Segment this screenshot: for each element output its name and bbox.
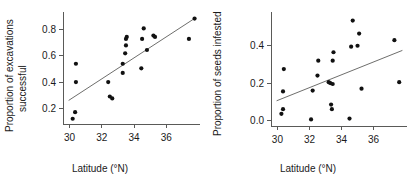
data-point (145, 48, 149, 52)
data-point (71, 117, 75, 121)
data-point (121, 62, 125, 66)
data-point (192, 16, 196, 20)
data-point (281, 89, 285, 93)
data-point (124, 43, 128, 47)
y-axis-title-line1: Proportion of seeds infested (212, 11, 223, 136)
data-point (309, 117, 313, 121)
data-point (315, 74, 319, 78)
x-tick-label: 30 (272, 134, 284, 145)
data-point (357, 31, 361, 35)
data-point (74, 80, 78, 84)
data-point (121, 71, 125, 75)
data-point (355, 44, 359, 48)
panel-left-plot: Proportion of excavations successful Lat… (0, 0, 204, 185)
x-tick-label: 32 (304, 134, 316, 145)
plot-body-left: 303234360.20.40.60.8 (42, 12, 200, 143)
y-axis-title-line2: successful (17, 65, 28, 112)
x-tick-label: 36 (161, 132, 173, 143)
data-point (279, 112, 283, 116)
y-tick-label: 0.2 (42, 103, 56, 114)
data-point (331, 50, 335, 54)
y-axis-title-right: Proportion of seeds infested (212, 11, 223, 136)
y-tick-label: 0.4 (250, 40, 264, 51)
panel-right-plot: Proportion of seeds infested Latitude (°… (205, 0, 409, 185)
y-axis-title-line1: Proportion of excavations (4, 19, 15, 132)
data-point (153, 35, 157, 39)
y-tick-label: 0.0 (250, 115, 264, 126)
panel-left-excavations: Proportion of excavations successful Lat… (0, 0, 204, 185)
x-tick-label: 34 (128, 132, 140, 143)
y-tick-label: 0.8 (42, 24, 56, 35)
x-axis-title-left: Latitude (°N) (72, 163, 128, 174)
x-tick-label: 36 (368, 134, 380, 145)
y-axis-title-left: Proportion of excavations successful (4, 19, 28, 132)
data-point (351, 18, 355, 22)
data-point (359, 87, 363, 91)
plot-body-right: 303234360.00.20.4 (250, 12, 407, 145)
x-axis-title-right: Latitude (°N) (280, 163, 336, 174)
y-tick-label: 0.6 (42, 50, 56, 61)
data-point (397, 80, 401, 84)
data-point (349, 45, 353, 49)
data-point (281, 107, 285, 111)
y-tick-label: 0.4 (42, 77, 56, 88)
data-point (106, 80, 110, 84)
data-point (139, 66, 143, 70)
data-point (140, 37, 144, 41)
data-point (282, 67, 286, 71)
regression-line (69, 18, 196, 101)
data-point (187, 37, 191, 41)
figure-container: Proportion of excavations successful Lat… (0, 0, 409, 185)
data-point (142, 26, 146, 30)
data-point (331, 82, 335, 86)
data-point (329, 102, 333, 106)
data-point (123, 51, 127, 55)
data-point (347, 116, 351, 120)
data-point (316, 59, 320, 63)
x-tick-label: 30 (64, 132, 76, 143)
data-point (331, 59, 335, 63)
panel-right-seeds: Proportion of seeds infested Latitude (°… (205, 0, 409, 185)
x-tick-label: 34 (336, 134, 348, 145)
data-point (73, 110, 77, 114)
x-tick-label: 32 (96, 132, 108, 143)
data-point (311, 88, 315, 92)
regression-line (277, 50, 403, 100)
data-point (125, 35, 129, 39)
data-point (330, 107, 334, 111)
data-point (392, 38, 396, 42)
data-point (110, 96, 114, 100)
y-tick-label: 0.2 (250, 78, 264, 89)
data-point (74, 62, 78, 66)
